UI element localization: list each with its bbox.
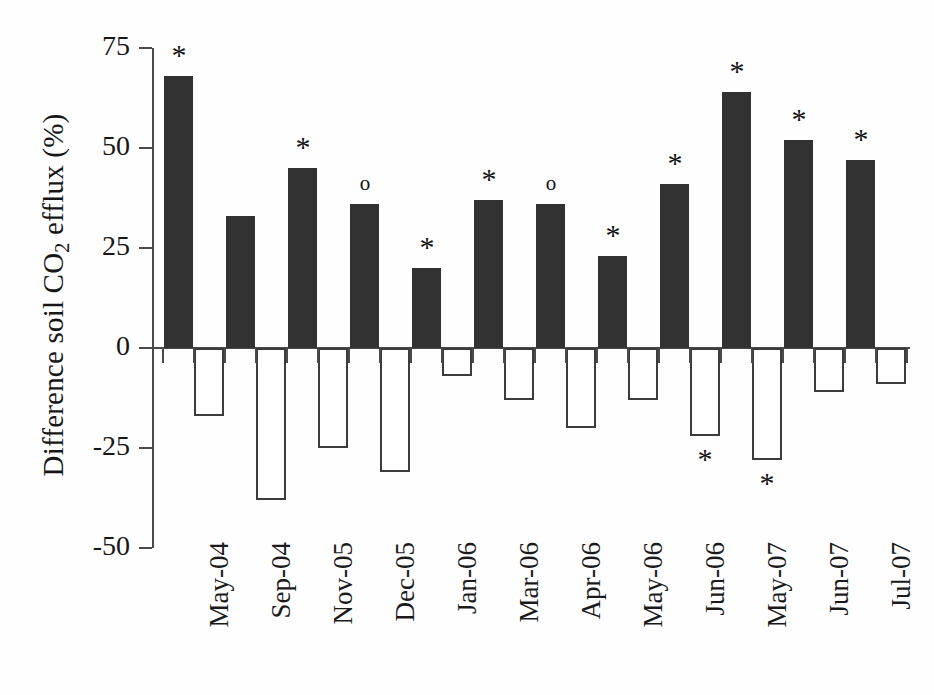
significance-circle-marker: o — [531, 168, 571, 198]
x-axis-tick — [689, 349, 691, 363]
bar-group: * — [163, 48, 225, 548]
y-axis-tick: 75 — [139, 47, 152, 49]
y-axis-title: Difference soil CO2 efflux (%) — [30, 45, 76, 545]
bar-group: ** — [659, 48, 721, 548]
x-axis-tick — [472, 349, 474, 363]
bar-group: * — [597, 48, 659, 548]
x-axis-tick — [720, 349, 722, 363]
plot-area: 7550250-25-50 **o**o******* — [152, 48, 910, 548]
y-axis-tick-label: 50 — [102, 129, 130, 163]
y-axis-title-post: efflux (%) — [37, 114, 69, 243]
significance-asterisk-marker: * — [469, 164, 509, 194]
x-axis-tick — [813, 349, 815, 363]
bar-group: * — [845, 48, 907, 548]
bar-group: o — [535, 48, 597, 548]
x-axis-label: Apr-06 — [575, 542, 607, 692]
bar-group: * — [783, 48, 845, 548]
x-axis-tick — [751, 349, 753, 363]
x-axis-tick — [627, 349, 629, 363]
bar-positive — [164, 76, 193, 348]
bar-group: * — [411, 48, 473, 548]
bar-positive — [722, 92, 751, 348]
bar-positive — [660, 184, 689, 348]
y-axis-title-pre: Difference soil CO — [37, 253, 69, 477]
bar-negative — [566, 348, 596, 428]
significance-asterisk-marker: * — [159, 40, 199, 70]
bar-group — [225, 48, 287, 548]
x-axis-tick — [565, 349, 567, 363]
significance-asterisk-marker: * — [747, 468, 787, 498]
x-axis-tick — [875, 349, 877, 363]
significance-asterisk-marker: * — [779, 104, 819, 134]
y-axis-tick-label: 0 — [116, 329, 130, 363]
y-axis-tick: -50 — [139, 547, 152, 549]
y-axis-tick-label: -50 — [93, 529, 130, 563]
x-axis-tick — [782, 349, 784, 363]
significance-asterisk-marker: * — [655, 148, 695, 178]
significance-asterisk-marker: * — [685, 444, 725, 474]
x-axis-label: Jan-06 — [451, 542, 483, 692]
significance-asterisk-marker: * — [717, 56, 757, 86]
bar-group: * — [287, 48, 349, 548]
bar-positive — [474, 200, 503, 348]
bar-positive — [226, 216, 255, 348]
x-axis-label: Dec-05 — [389, 542, 421, 692]
bar-positive — [598, 256, 627, 348]
x-axis-labels: May-04Sep-04Nov-05Dec-05Jan-06Mar-06Apr-… — [152, 556, 910, 695]
bar-positive — [350, 204, 379, 348]
bar-negative — [318, 348, 348, 448]
x-axis-tick — [224, 349, 226, 363]
x-axis-tick — [348, 349, 350, 363]
bar-negative — [628, 348, 658, 400]
significance-asterisk-marker: * — [593, 220, 633, 250]
bar-group: o — [349, 48, 411, 548]
significance-circle-marker: o — [345, 168, 385, 198]
bar-negative — [380, 348, 410, 472]
x-axis-tick — [534, 349, 536, 363]
x-axis-label: Sep-04 — [265, 542, 297, 692]
significance-asterisk-marker: * — [283, 132, 323, 162]
x-axis-tick — [162, 349, 164, 363]
bar-positive — [288, 168, 317, 348]
x-axis-tick — [255, 349, 257, 363]
significance-asterisk-marker: * — [841, 124, 881, 154]
bar-group: * — [473, 48, 535, 548]
bar-negative — [752, 348, 782, 460]
bar-positive — [412, 268, 441, 348]
x-axis-tick — [596, 349, 598, 363]
y-axis-tick: 0 — [139, 347, 152, 349]
x-axis-tick — [317, 349, 319, 363]
bar-negative — [876, 348, 906, 384]
bar-negative — [442, 348, 472, 376]
y-axis-tick: -25 — [139, 447, 152, 449]
x-axis-tick — [844, 349, 846, 363]
x-axis-tick — [193, 349, 195, 363]
y-axis-tick-label: 75 — [102, 29, 130, 63]
x-axis-tick — [503, 349, 505, 363]
y-axis-tick: 50 — [139, 147, 152, 149]
x-axis-label: Nov-05 — [327, 542, 359, 692]
x-axis-label: May-07 — [761, 542, 793, 692]
x-axis-label: May-06 — [637, 542, 669, 692]
x-axis-label: Jun-07 — [823, 542, 855, 692]
y-axis-title-subscript: 2 — [51, 242, 73, 252]
bar-negative — [504, 348, 534, 400]
bar-positive — [846, 160, 875, 348]
chart-figure: Difference soil CO2 efflux (%) 7550250-2… — [0, 0, 934, 695]
x-axis-label: May-04 — [203, 542, 235, 692]
y-axis-tick-label: -25 — [93, 429, 130, 463]
significance-asterisk-marker: * — [407, 232, 447, 262]
x-axis-tick — [379, 349, 381, 363]
bar-negative — [690, 348, 720, 436]
bar-series-container: **o**o******* — [152, 48, 910, 548]
x-axis-label: Mar-06 — [513, 542, 545, 692]
bar-negative — [194, 348, 224, 416]
bar-negative — [256, 348, 286, 500]
x-axis-tick — [658, 349, 660, 363]
bar-positive — [784, 140, 813, 348]
x-axis-label: Jul-07 — [885, 542, 917, 692]
y-axis-tick: 25 — [139, 247, 152, 249]
x-axis-tick — [286, 349, 288, 363]
bar-negative — [814, 348, 844, 392]
y-axis-tick-label: 25 — [102, 229, 130, 263]
